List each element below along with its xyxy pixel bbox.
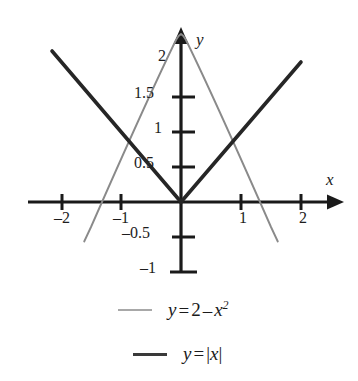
legend-minus-parabola: – [201,300,215,321]
y-axis-ticks [170,97,197,272]
legend-const-parabola: 2 [191,300,201,321]
x-tick-label-1: 1 [228,209,258,227]
x-axis-arrowhead [327,195,344,210]
y-tick-label-2: 2 [120,47,166,65]
legend-var-parabola: x [214,300,222,321]
legend-swatch-parabola [118,309,152,311]
curve-abs-right-arm [181,62,301,202]
x-tick-label--2: –2 [47,209,77,227]
legend-label-parabola: y=2–x2 [168,298,229,321]
y-tick-label-1: 1 [116,119,162,137]
legend-item-parabola: y=2–x2 [0,288,358,332]
graph-figure: y x 2 1.5 1 0.5 –0.5 –1 –2 –1 1 2 y=2–x2… [0,0,358,381]
y-tick-label-1.5: 1.5 [108,84,154,102]
legend-equals-abs: = [191,343,206,364]
legend-equals-parabola: = [176,300,191,321]
x-tick-label--1: –1 [106,209,136,227]
x-axis-label: x [326,170,334,190]
legend-abs-close: | [218,343,222,364]
legend-item-abs: y=|x| [0,332,358,376]
legend: y=2–x2 y=|x| [0,288,358,376]
legend-swatch-abs [133,353,167,356]
x-tick-label-2: 2 [288,209,318,227]
legend-exponent-parabola: 2 [223,298,229,312]
y-tick-label-0.5: 0.5 [108,154,154,172]
y-axis-label: y [196,30,204,50]
legend-label-abs: y=|x| [183,343,222,365]
y-tick-label--1: –1 [110,259,156,277]
